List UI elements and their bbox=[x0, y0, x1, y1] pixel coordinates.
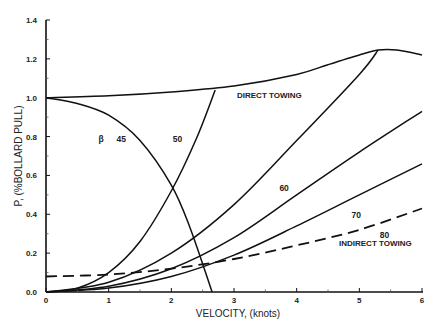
y-axis-title: P, (%BOLLARD PULL) bbox=[13, 106, 24, 207]
x-tick-label: 1 bbox=[106, 296, 111, 305]
y-tick-label: 0.0 bbox=[26, 288, 38, 297]
beta-symbol-label: β bbox=[99, 134, 104, 144]
x-tick-label: 5 bbox=[357, 296, 362, 305]
y-tick-label: 0.2 bbox=[26, 249, 38, 258]
curve-label-60: 60 bbox=[279, 183, 289, 193]
curve-label-45: 45 bbox=[116, 134, 126, 144]
y-tick-label: 0.8 bbox=[26, 133, 38, 142]
series-line-60 bbox=[46, 50, 378, 292]
indirect-towing-label: INDIRECT TOWING bbox=[339, 239, 412, 248]
curve-label-50: 50 bbox=[173, 134, 183, 144]
y-tick-label: 1.0 bbox=[26, 94, 38, 103]
plot-lines bbox=[46, 50, 422, 293]
series-line-50 bbox=[46, 90, 215, 292]
axes bbox=[46, 20, 423, 292]
series-line-direct-towing bbox=[46, 50, 422, 98]
y-tick-label: 0.6 bbox=[26, 171, 38, 180]
x-tick-label: 3 bbox=[232, 296, 237, 305]
towing-force-chart: 0.00.20.40.60.81.01.21.4 0123456 β455060… bbox=[0, 0, 439, 328]
direct-towing-label: DIRECT TOWING bbox=[237, 91, 302, 100]
y-tick-label: 1.2 bbox=[26, 55, 38, 64]
curve-labels: β4550607080 bbox=[99, 134, 390, 239]
y-tick-label: 0.4 bbox=[26, 210, 38, 219]
x-axis-title: VELOCITY, (knots) bbox=[196, 308, 280, 319]
curve-label-70: 70 bbox=[351, 210, 361, 220]
y-tick-label: 1.4 bbox=[26, 16, 38, 25]
x-tick-label: 0 bbox=[44, 296, 49, 305]
x-tick-label: 6 bbox=[420, 296, 425, 305]
x-ticks: 0123456 bbox=[44, 288, 425, 305]
x-tick-label: 4 bbox=[294, 296, 299, 305]
x-tick-label: 2 bbox=[169, 296, 174, 305]
